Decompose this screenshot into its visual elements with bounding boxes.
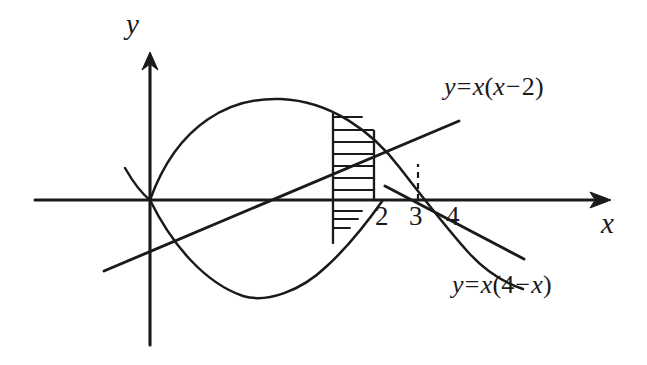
eq-term-b: x [531,270,543,299]
eq-lhs: y [452,270,464,299]
eq-term-a: x [493,72,505,101]
diagram-svg [0,0,647,365]
eq-close-paren: ) [543,270,552,299]
curve-y-equals-x-times-4-minus-x [125,99,523,289]
eq-close-paren: ) [535,72,544,101]
equation-label-lower-parabola: y=x(x−2) [444,74,544,100]
eq-term-b: 2 [522,72,535,101]
x-tick-label-4: 4 [446,203,460,230]
curve-lower-parabola-group [150,200,383,298]
eq-operator: − [505,72,522,101]
eq-coefficient: x [473,72,485,101]
x-tick-label-3: 3 [409,203,423,230]
eq-open-paren: ( [492,270,501,299]
figure-canvas: y x 2 3 4 y=x(x−2) y=x(4−x) [0,0,647,365]
eq-equals: = [464,270,481,299]
y-axis-label: y [126,10,139,39]
eq-open-paren: ( [484,72,493,101]
eq-lhs: y [444,72,456,101]
curve-upper-parabola-group [125,99,523,289]
eq-operator: − [514,270,531,299]
eq-coefficient: x [481,270,493,299]
eq-equals: = [456,72,473,101]
eq-term-a: 4 [501,270,514,299]
x-axis-label: x [601,209,614,238]
equation-label-upper-parabola: y=x(4−x) [452,272,552,298]
x-tick-label-2: 2 [375,203,389,230]
curve-y-equals-x-times-x-minus-2 [150,200,383,298]
